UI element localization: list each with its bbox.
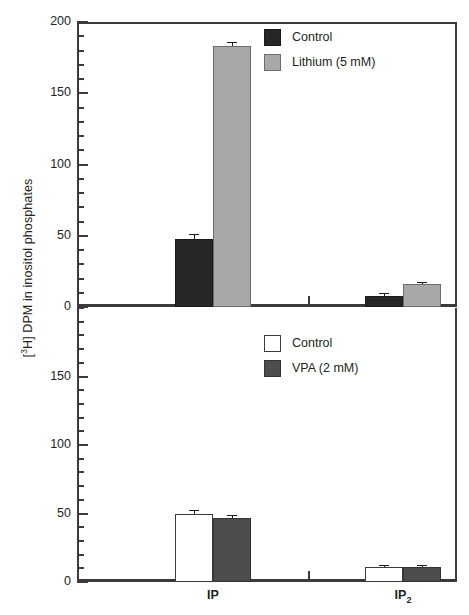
x-axis-group-separator-bottom [308,571,310,582]
error-bar [384,294,385,296]
error-bar [422,283,423,284]
error-bar [194,511,195,513]
y-axis-minor-tick [77,417,84,419]
y-axis-minor-tick [77,485,84,487]
y-axis-minor-tick [77,321,84,323]
y-axis-minor-tick [77,64,84,66]
y-axis-minor-tick [77,554,84,556]
y-axis-minor-tick [77,334,84,336]
bar [365,567,403,582]
y-axis-minor-tick [77,292,84,294]
y-axis-minor-tick [77,307,84,309]
error-bar-cap [227,42,237,43]
y-axis-minor-tick [77,403,84,405]
y-axis-minor-tick [77,471,84,473]
y-axis-minor-tick [77,430,84,432]
y-axis-major-tick: 50 [77,235,88,237]
y-axis-minor-tick [77,149,84,151]
y-axis-minor-tick [77,50,84,52]
bar [403,284,441,307]
x-axis-tick-label-ip: IP [173,588,253,602]
y-axis-major-tick: 50 [77,513,88,515]
y-axis-minor-tick [77,249,84,251]
y-axis-major-tick: 150 [77,92,88,94]
error-bar-cap [379,565,389,566]
y-axis-major-tick: 150 [77,376,88,378]
x-tick-label-subscript: 2 [406,595,411,605]
legend-item: Control [264,332,358,354]
y-axis-minor-tick [77,278,84,280]
y-axis-tick-label: 50 [57,506,71,520]
error-bar-cap [417,282,427,283]
error-bar [232,43,233,47]
legend-swatch-icon [264,335,281,352]
y-axis-tick-label: 150 [50,369,71,383]
y-axis-title-superscript: 3 [19,349,29,354]
y-axis-minor-tick [77,263,84,265]
y-axis-minor-tick [77,499,84,501]
y-axis-minor-tick [77,362,84,364]
y-axis-minor-tick [77,221,84,223]
y-axis-minor-tick [77,121,84,123]
legend-bottom: Control VPA (2 mM) [264,332,358,382]
legend-item: Control [264,26,375,48]
y-axis-tick-label: 100 [50,157,71,171]
y-axis-minor-tick [77,35,84,37]
error-bar-cap [379,293,389,294]
error-bar [194,235,195,239]
y-axis-minor-tick [77,178,84,180]
x-axis-group-separator-top [308,296,310,307]
x-tick-label-base: IP [395,588,407,602]
legend-item: Lithium (5 mM) [264,51,375,73]
legend-swatch-icon [264,360,281,377]
figure-panel: [3H] DPM in inositol phosphates 05010015… [0,0,469,615]
legend-item-label: Control [292,30,332,44]
legend-item-label: VPA (2 mM) [292,361,358,375]
legend-swatch-icon [264,54,281,71]
x-axis-tick-label-ip2: IP2 [363,588,443,605]
y-axis-tick-label: 150 [50,85,71,99]
legend-top: Control Lithium (5 mM) [264,26,375,76]
y-axis-tick-label: 0 [64,574,71,588]
error-bar [384,566,385,567]
legend-item: VPA (2 mM) [264,357,358,379]
error-bar-cap [189,510,199,511]
y-axis-title-text: [3H] DPM in inositol phosphates [21,179,35,358]
y-axis-minor-tick [77,348,84,350]
bar [365,296,403,307]
bar [175,239,213,307]
y-axis-minor-tick [77,192,84,194]
error-bar [232,516,233,518]
y-axis-minor-tick [77,135,84,137]
legend-item-label: Control [292,336,332,350]
error-bar-cap [189,234,199,235]
y-axis-tick-label: 0 [64,299,71,313]
y-axis-minor-tick [77,567,84,569]
y-axis-tick-label: 100 [50,437,71,451]
y-axis-title: [3H] DPM in inositol phosphates [19,138,39,398]
legend-swatch-icon [264,29,281,46]
y-axis-major-tick: 200 [77,21,88,23]
y-axis-tick-label: 50 [57,228,71,242]
error-bar-cap [417,565,427,566]
y-axis-tick-label: 200 [50,14,71,28]
bar [403,567,441,582]
y-axis-minor-tick [77,78,84,80]
y-axis-minor-tick [77,107,84,109]
legend-item-label: Lithium (5 mM) [292,55,375,69]
y-axis-minor-tick [77,526,84,528]
y-axis-major-tick: 0 [77,581,88,583]
x-tick-label-base: IP [207,588,219,602]
error-bar-cap [227,515,237,516]
y-axis-minor-tick [77,389,84,391]
error-bar [422,566,423,567]
bar [213,518,251,582]
y-axis-minor-tick [77,206,84,208]
bar [213,46,251,307]
bar [175,514,213,583]
y-axis-major-tick: 100 [77,164,88,166]
y-axis-major-tick: 100 [77,444,88,446]
y-axis-minor-tick [77,458,84,460]
y-axis-minor-tick [77,540,84,542]
